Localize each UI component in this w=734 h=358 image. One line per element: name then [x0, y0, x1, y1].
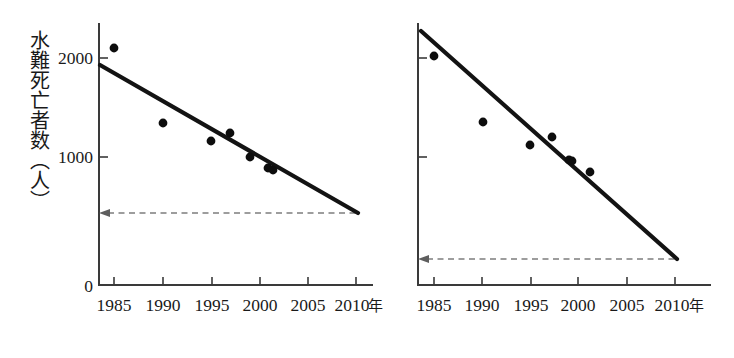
left-x-ticks — [114, 277, 356, 285]
left-trend-line — [100, 65, 358, 213]
right-xtick-label-2010: 2010 — [655, 295, 690, 315]
left-ytick-label-0: 0 — [84, 276, 93, 296]
left-x-unit-label: 年 — [368, 297, 383, 314]
data-point — [207, 137, 216, 146]
data-point — [110, 44, 119, 53]
right-x-unit-label: 年 — [689, 297, 704, 314]
data-point — [479, 118, 488, 127]
data-point — [269, 166, 278, 175]
left-x-tick-labels: 1985 1990 1995 2000 2005 2010 年 — [97, 295, 384, 315]
left-xtick-label-1995: 1995 — [195, 295, 230, 315]
data-point — [246, 153, 255, 162]
right-annotation-dashed-arrow — [418, 255, 677, 263]
left-xtick-label-2010: 2010 — [335, 295, 370, 315]
data-point — [159, 119, 168, 128]
left-ytick-label-1000: 1000 — [58, 147, 93, 167]
chart-right: 1985 1990 1995 2000 2005 2010 年 — [417, 24, 711, 315]
right-y-ticks — [418, 58, 427, 157]
right-arrow-head — [418, 255, 429, 263]
left-xtick-label-2005: 2005 — [291, 295, 326, 315]
data-point — [430, 52, 439, 61]
data-point — [568, 157, 577, 166]
left-data-points — [110, 44, 278, 175]
left-arrow-head — [99, 209, 110, 217]
left-xtick-label-1985: 1985 — [97, 295, 132, 315]
right-xtick-label-1990: 1990 — [465, 295, 500, 315]
dual-scatter-figure: 2000 1000 0 1985 1990 1995 2000 2005 201… — [0, 0, 734, 358]
right-xtick-label-2005: 2005 — [610, 295, 645, 315]
right-xtick-label-2000: 2000 — [561, 295, 596, 315]
data-point — [526, 141, 535, 150]
right-x-tick-labels: 1985 1990 1995 2000 2005 2010 年 — [417, 295, 705, 315]
right-xtick-label-1995: 1995 — [514, 295, 549, 315]
right-xtick-label-1985: 1985 — [417, 295, 452, 315]
left-y-tick-labels: 2000 1000 0 — [58, 48, 93, 296]
right-x-ticks — [434, 277, 675, 285]
data-point — [226, 129, 235, 138]
data-point — [586, 168, 595, 177]
right-trend-line — [421, 31, 677, 259]
chart-left: 2000 1000 0 1985 1990 1995 2000 2005 201… — [58, 24, 383, 315]
left-xtick-label-1990: 1990 — [146, 295, 181, 315]
left-y-ticks — [99, 58, 108, 157]
left-ytick-label-2000: 2000 — [58, 48, 93, 68]
data-point — [548, 133, 557, 142]
left-xtick-label-2000: 2000 — [243, 295, 278, 315]
left-annotation-dashed-arrow — [99, 209, 358, 217]
